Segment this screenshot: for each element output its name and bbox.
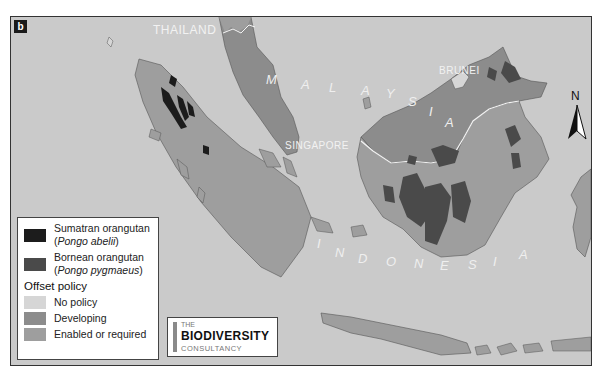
label-brunei: BRUNEI xyxy=(439,65,480,76)
swatch-developing xyxy=(24,312,46,325)
logo-name: BIODIVERSITY xyxy=(181,329,269,343)
label-singapore: SINGAPORE xyxy=(285,140,349,151)
legend-item-sumatran: Sumatran orangutan (Pongo abelii) xyxy=(24,222,152,248)
legend-no-policy-label: No policy xyxy=(54,296,97,309)
java xyxy=(321,313,471,355)
legend-enabled-label: Enabled or required xyxy=(54,328,146,341)
swatch-bornean xyxy=(24,258,46,271)
swatch-sumatran xyxy=(24,229,46,242)
legend-sumatran-latin: Pongo abelii xyxy=(58,235,116,247)
label-thailand: THAILAND xyxy=(153,23,216,37)
logo-bar xyxy=(173,322,177,352)
consultancy-logo: THE BIODIVERSITY CONSULTANCY xyxy=(167,317,278,357)
north-arrow: N xyxy=(566,89,588,141)
swatch-enabled xyxy=(24,328,46,341)
legend-bornean-latin: Pongo pygmaeus xyxy=(58,264,140,276)
legend-item-bornean: Bornean orangutan (Pongo pygmaeus) xyxy=(24,251,152,277)
sulawesi xyxy=(571,169,591,257)
legend-sumatran-name: Sumatran orangutan xyxy=(54,222,150,234)
north-label: N xyxy=(571,89,580,103)
legend-bornean-name: Bornean orangutan xyxy=(54,251,144,263)
legend-policy-title: Offset policy xyxy=(24,280,152,292)
sumatra xyxy=(135,59,311,277)
malay-peninsula xyxy=(219,17,299,155)
legend-item-no-policy: No policy xyxy=(24,296,152,309)
map-frame: b THAILAND BRUNEI SINGAPORE M A L A Y S … xyxy=(10,16,592,366)
legend-developing-label: Developing xyxy=(54,312,107,325)
north-arrow-icon xyxy=(566,103,588,143)
legend-item-enabled: Enabled or required xyxy=(24,328,152,341)
swatch-no-policy xyxy=(24,296,46,309)
logo-the: THE xyxy=(181,321,195,328)
logo-sub: CONSULTANCY xyxy=(181,344,242,353)
panel-label: b xyxy=(14,20,27,33)
legend: Sumatran orangutan (Pongo abelii) Bornea… xyxy=(17,217,159,360)
legend-item-developing: Developing xyxy=(24,312,152,325)
